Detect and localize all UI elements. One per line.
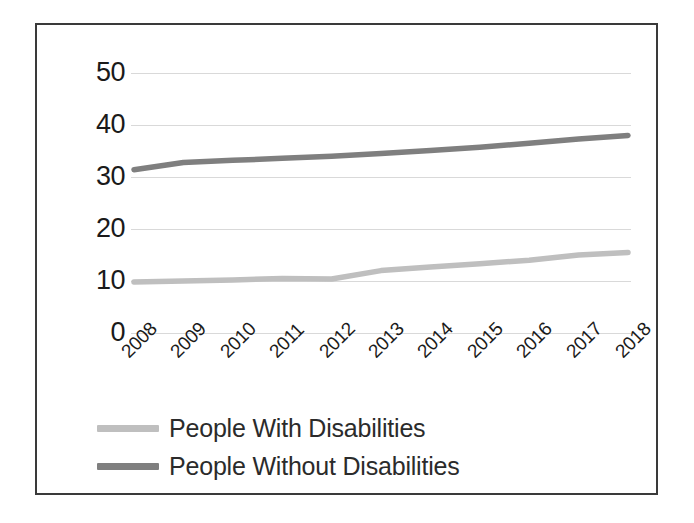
legend-swatch-people-with-disabilities bbox=[97, 425, 159, 432]
legend-item-people-without-disabilities[interactable]: People Without Disabilities bbox=[97, 449, 460, 483]
y-axis-labels: 01020304050 bbox=[65, 73, 125, 333]
plot-area bbox=[131, 73, 631, 333]
y-tick-label-10: 10 bbox=[71, 267, 125, 294]
chart-frame: 01020304050 2008200920102011201220132014… bbox=[35, 23, 658, 495]
y-tick-label-50: 50 bbox=[71, 59, 125, 86]
legend-swatch-people-without-disabilities bbox=[97, 463, 159, 470]
x-axis-labels: 2008200920102011201220132014201520162017… bbox=[131, 333, 631, 403]
y-tick-label-30: 30 bbox=[71, 163, 125, 190]
series-line-people-with-disabilities bbox=[134, 252, 628, 282]
legend-label-people-with-disabilities: People With Disabilities bbox=[169, 414, 425, 443]
y-tick-label-0: 0 bbox=[71, 319, 125, 346]
chart-legend: People With Disabilities People Without … bbox=[97, 407, 617, 507]
series-line-people-without-disabilities bbox=[134, 135, 628, 169]
chart-figure: 01020304050 2008200920102011201220132014… bbox=[0, 0, 694, 523]
legend-label-people-without-disabilities: People Without Disabilities bbox=[169, 452, 460, 481]
y-tick-label-40: 40 bbox=[71, 111, 125, 138]
y-tick-label-20: 20 bbox=[71, 215, 125, 242]
legend-item-people-with-disabilities[interactable]: People With Disabilities bbox=[97, 411, 425, 445]
series-lines bbox=[131, 73, 631, 333]
